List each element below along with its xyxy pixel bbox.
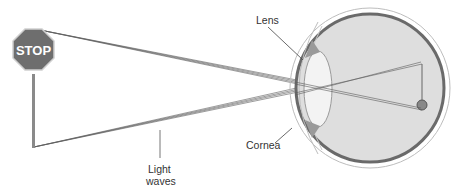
sign-pole bbox=[32, 74, 35, 148]
lens-label: Lens bbox=[256, 14, 279, 26]
eye-diagram: STOP bbox=[0, 0, 454, 193]
stop-text: STOP bbox=[16, 43, 51, 58]
light-label: Light bbox=[148, 163, 171, 175]
inverted-image bbox=[417, 100, 427, 110]
waves-label: waves bbox=[146, 175, 176, 187]
lens-leader bbox=[268, 27, 303, 60]
cornea-label: Cornea bbox=[246, 139, 280, 151]
